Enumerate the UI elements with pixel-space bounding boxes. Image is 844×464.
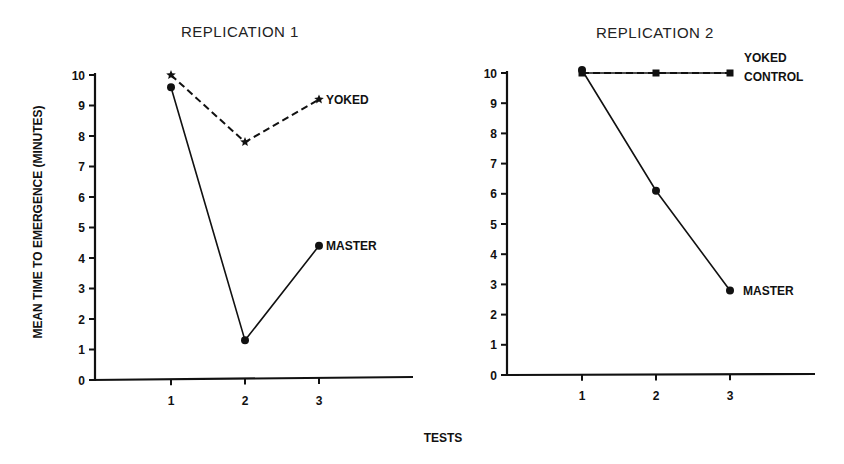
circle-marker (578, 66, 586, 74)
y-tick-label: 4 (490, 248, 497, 262)
series-lines (166, 70, 324, 344)
square-marker (653, 70, 660, 77)
series-master (167, 83, 323, 344)
y-axis-title: MEAN TIME TO EMERGENCE (MINUTES) (31, 105, 45, 338)
circle-marker (167, 83, 175, 91)
chart-replication-2: REPLICATION 2 012345678910 123 YOKEDCONT… (484, 24, 815, 403)
chart-replication-1: REPLICATION 1 012345678910 123 YOKEDMAST… (72, 23, 413, 408)
x-tick-label: 1 (579, 389, 586, 403)
chart-title: REPLICATION 2 (596, 24, 714, 41)
y-tick-label: 8 (78, 130, 85, 144)
y-tick-label: 5 (78, 221, 85, 235)
series-labels: YOKEDCONTROLMASTER (743, 51, 803, 298)
series-label: YOKED (326, 93, 369, 107)
y-tick-label: 10 (484, 67, 498, 81)
axes (501, 71, 815, 381)
y-tick-label: 8 (490, 127, 497, 141)
y-tick-labels: 012345678910 (484, 67, 498, 383)
circle-marker (241, 336, 249, 344)
series-yoked (166, 70, 324, 146)
y-tick-label: 0 (78, 374, 85, 388)
y-tick-label: 2 (490, 308, 497, 322)
x-axis (91, 377, 413, 380)
y-tick-label: 7 (78, 160, 85, 174)
series-yoked-control (579, 70, 734, 77)
x-tick-labels: 123 (168, 394, 323, 408)
circle-marker (652, 187, 660, 195)
circle-marker (315, 242, 323, 250)
circle-marker (726, 286, 734, 294)
chart-title: REPLICATION 1 (181, 23, 299, 40)
figure: MEAN TIME TO EMERGENCE (MINUTES) TESTS R… (0, 0, 844, 464)
x-tick-label: 3 (727, 389, 734, 403)
y-tick-label: 9 (78, 99, 85, 113)
axes (89, 73, 413, 385)
series-label: MASTER (743, 284, 794, 298)
y-tick-labels: 012345678910 (72, 69, 86, 388)
y-tick-label: 4 (78, 252, 85, 266)
series-label: YOKED (744, 51, 787, 65)
series-master (578, 66, 734, 294)
y-tick-label: 1 (78, 343, 85, 357)
series-label: CONTROL (744, 70, 803, 84)
y-tick-label: 3 (490, 278, 497, 292)
y-tick-label: 0 (490, 369, 497, 383)
y-tick-label: 10 (72, 69, 86, 83)
y-tick-label: 6 (78, 191, 85, 205)
x-tick-label: 3 (316, 394, 323, 408)
series-line (171, 87, 319, 340)
series-lines (578, 66, 734, 294)
series-label: MASTER (326, 239, 377, 253)
x-tick-label: 2 (242, 394, 249, 408)
y-tick-label: 1 (490, 338, 497, 352)
y-tick-label: 5 (490, 218, 497, 232)
y-tick-label: 6 (490, 187, 497, 201)
square-marker (727, 70, 734, 77)
series-line (171, 75, 319, 142)
x-tick-label: 2 (653, 389, 660, 403)
series-labels: YOKEDMASTER (326, 93, 377, 253)
x-axis-title: TESTS (424, 431, 463, 445)
x-axis (503, 374, 815, 375)
y-tick-label: 2 (78, 313, 85, 327)
y-tick-label: 7 (490, 157, 497, 171)
y-tick-label: 9 (490, 97, 497, 111)
series-line (582, 70, 730, 290)
x-tick-label: 1 (168, 394, 175, 408)
x-tick-labels: 123 (579, 389, 734, 403)
y-tick-label: 3 (78, 282, 85, 296)
